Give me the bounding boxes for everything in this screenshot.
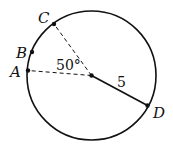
point-c bbox=[52, 22, 56, 26]
point-d bbox=[145, 103, 149, 107]
label-b: B bbox=[15, 44, 27, 62]
label-a: A bbox=[8, 63, 21, 81]
radius-label: 5 bbox=[117, 74, 126, 90]
label-d: D bbox=[152, 104, 165, 122]
point-b bbox=[30, 50, 34, 54]
angle-label: 50° bbox=[56, 57, 81, 73]
label-c: C bbox=[38, 9, 50, 27]
center-point bbox=[89, 73, 93, 77]
point-a bbox=[26, 68, 30, 72]
circle-diagram: C B A D 50° 5 bbox=[0, 0, 173, 145]
